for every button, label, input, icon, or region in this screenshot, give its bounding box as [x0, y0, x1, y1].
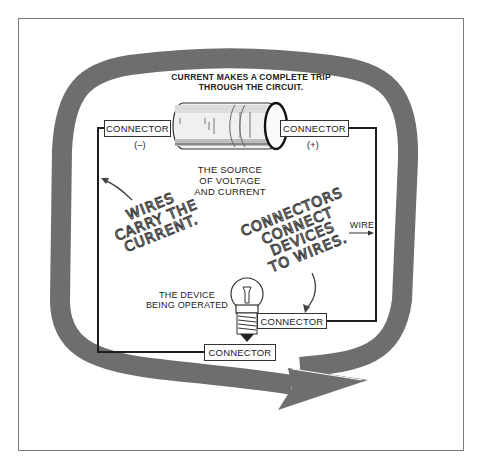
diagram-title: CURRENT MAKES A COMPLETE TRIP THROUGH TH… — [160, 73, 342, 93]
title-line-2: THROUGH THE CIRCUIT. — [160, 83, 342, 93]
connector-bottom: CONNECTOR — [204, 344, 276, 361]
connector-top-left: CONNECTOR — [104, 120, 171, 137]
device-line-2: BEING OPERATED — [140, 300, 234, 310]
negative-terminal-label: (–) — [130, 140, 150, 150]
connectors-pointer-icon — [307, 273, 315, 308]
device-label: THE DEVICE BEING OPERATED — [140, 290, 234, 311]
wires-pointer-icon — [104, 180, 132, 200]
connector-device: CONNECTOR — [257, 313, 327, 329]
light-bulb-icon — [231, 278, 263, 342]
connector-top-right: CONNECTOR — [280, 120, 349, 137]
positive-terminal-label: (+) — [303, 140, 323, 150]
device-line-1: THE DEVICE — [140, 290, 234, 300]
battery-icon — [173, 103, 287, 149]
